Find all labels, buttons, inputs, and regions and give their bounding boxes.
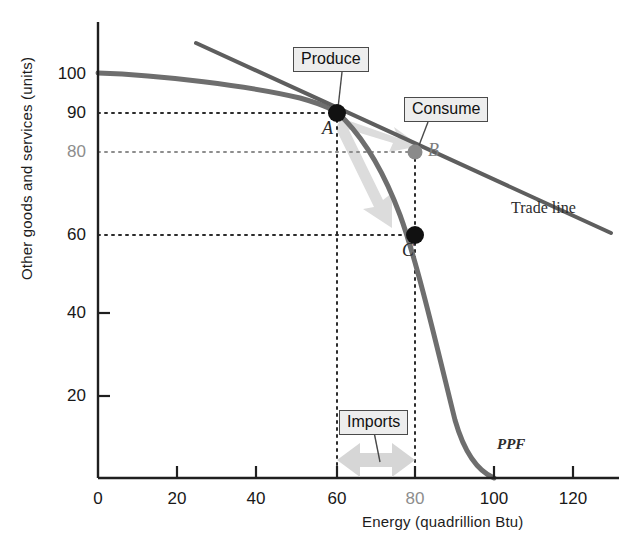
x-tick-label-60: 60 bbox=[314, 489, 360, 509]
y-tick-label-80: 80 bbox=[30, 142, 86, 162]
y-tick-label-20: 20 bbox=[30, 386, 86, 406]
y-tick-label-40: 40 bbox=[30, 303, 86, 323]
point-label-c: C bbox=[402, 240, 414, 261]
consume-callout[interactable]: Consume bbox=[404, 97, 488, 122]
x-tick-label-20: 20 bbox=[154, 489, 200, 509]
point-label-a: A bbox=[322, 118, 333, 139]
trade-line-label: Trade line bbox=[511, 199, 576, 217]
x-tick-label-100: 100 bbox=[471, 489, 517, 509]
imports-arrow bbox=[337, 443, 415, 477]
x-tick-label-40: 40 bbox=[233, 489, 279, 509]
ppf-trade-chart: Other goods and services (units) Energy … bbox=[0, 0, 624, 545]
produce-callout[interactable]: Produce bbox=[293, 47, 369, 72]
x-tick-label-80: 80 bbox=[392, 489, 438, 509]
ppf-label: PPF bbox=[497, 436, 525, 453]
point-label-b: B bbox=[428, 140, 439, 161]
direction-arrows bbox=[336, 118, 420, 228]
imports-callout[interactable]: Imports bbox=[339, 410, 408, 435]
leader-consume bbox=[418, 122, 428, 148]
x-tick-label-0: 0 bbox=[75, 489, 121, 509]
y-tick-label-60: 60 bbox=[30, 225, 86, 245]
leader-produce bbox=[338, 72, 342, 108]
x-axis-title: Energy (quadrillion Btu) bbox=[362, 513, 524, 530]
y-tick-label-100: 100 bbox=[30, 64, 86, 84]
point-b-marker[interactable] bbox=[408, 145, 423, 160]
y-tick-label-90: 90 bbox=[30, 103, 86, 123]
axis-ticks bbox=[98, 313, 573, 478]
x-tick-label-120: 120 bbox=[550, 489, 596, 509]
ppf-curve bbox=[98, 73, 494, 478]
chart-canvas bbox=[0, 0, 624, 545]
